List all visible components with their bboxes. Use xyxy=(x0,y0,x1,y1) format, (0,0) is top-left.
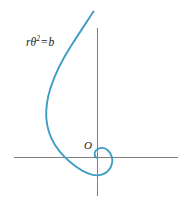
polar-curve-plot xyxy=(0,0,187,206)
equation-constant: b xyxy=(48,36,54,48)
lituus-spiral-curve xyxy=(46,12,112,176)
figure-container: rθ2=b O xyxy=(0,0,187,206)
curve-equation-label: rθ2=b xyxy=(26,35,54,48)
origin-label: O xyxy=(84,140,92,151)
